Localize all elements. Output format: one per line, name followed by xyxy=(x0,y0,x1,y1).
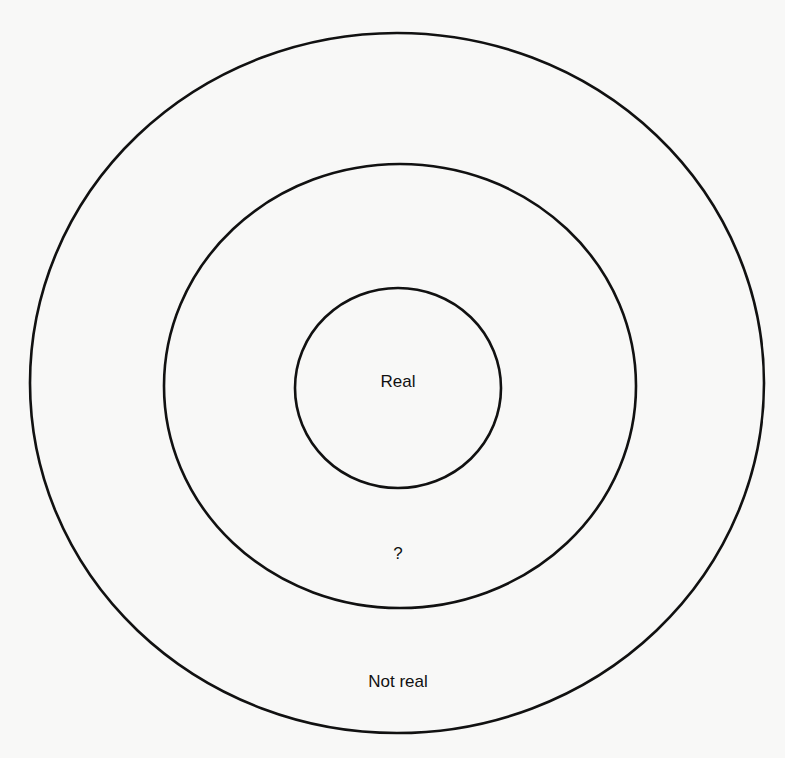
label-not-real: Not real xyxy=(368,673,428,690)
diagram-canvas: Real ? Not real xyxy=(0,0,785,758)
label-question-mark: ? xyxy=(393,545,402,562)
label-real: Real xyxy=(381,373,416,390)
